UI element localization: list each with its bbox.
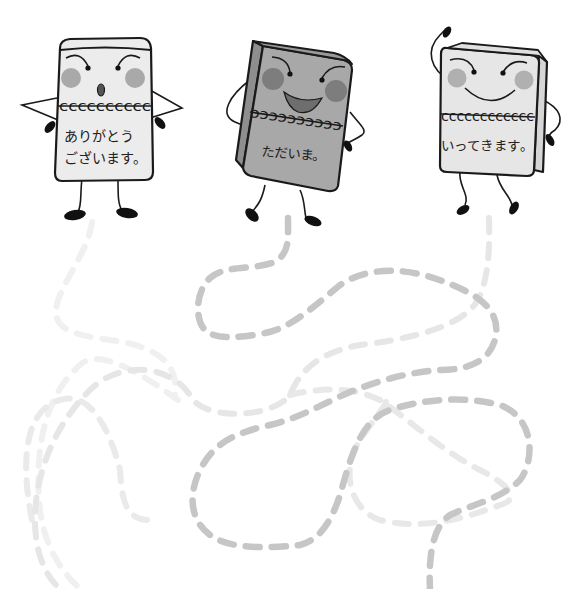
cheek-right [515,71,534,90]
leg-left [460,172,466,205]
mouth-surprised [98,84,105,96]
eye-left-icon [471,69,476,74]
band-pattern: cccccccccccc [441,108,534,124]
eye-right-icon [500,70,505,75]
tracing-paths [26,218,529,589]
arm-right [345,112,364,145]
worksheet: cccccccccc ありがとう ございます。 ɔɔɔɔɔɔɔɔɔ [0,0,577,589]
path-from-left[interactable] [38,222,178,589]
path-from-center[interactable] [193,218,530,589]
leg-right [118,178,122,210]
cheek-left [262,68,284,90]
cheek-left [61,68,81,88]
arm-left [22,98,58,120]
leg-left [78,178,82,212]
eye-right-icon [319,77,324,82]
eye-right-icon [115,65,120,70]
leg-right [497,175,512,205]
foot-left-icon [455,203,471,217]
foot-right-icon [507,200,521,216]
arm-right [150,90,182,118]
foot-right-icon [115,206,138,220]
hand-left-icon [42,119,57,135]
foot-left-icon [243,206,261,224]
eye-left-icon [287,71,292,76]
cheek-right [325,80,347,102]
path-from-right[interactable] [35,218,489,589]
character-left: cccccccccc ありがとう ございます。 [22,38,182,222]
cheek-left [448,69,467,88]
character-center: ɔɔɔɔɔɔɔɔɔɔ ただいま。 [227,41,364,228]
leg-right [300,190,306,218]
cheek-right [125,68,145,88]
label-arigatou-line1: ありがとう [64,128,134,144]
foot-left-icon [63,208,86,222]
band-pattern: cccccccccc [59,98,151,114]
hand-right-icon [152,115,167,131]
label-ittekimasu: いってきます。 [441,138,533,153]
eye-left-icon [85,65,90,70]
label-arigatou-line2: ございます。 [64,150,147,166]
leg-left [252,185,265,212]
character-right: cccccccccccc いってきます。 [431,25,560,217]
